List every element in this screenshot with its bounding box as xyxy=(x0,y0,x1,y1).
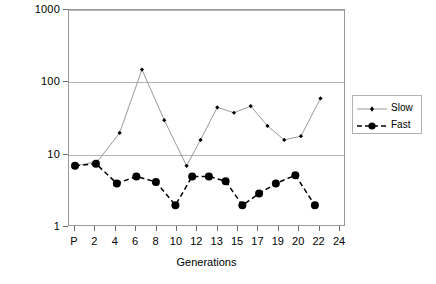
series-fast-marker xyxy=(171,201,179,209)
series-fast-marker xyxy=(188,172,196,180)
series-fast-marker xyxy=(238,201,246,209)
x-tick-label: 13 xyxy=(211,235,223,247)
x-tick-label: 4 xyxy=(112,235,118,247)
series-fast-marker xyxy=(152,178,160,186)
y-tick-label: 1000 xyxy=(35,3,60,15)
series-slow-marker xyxy=(232,111,236,115)
y-tick-label: 10 xyxy=(47,148,60,160)
x-tick-mark xyxy=(196,226,197,231)
x-tick-mark xyxy=(339,226,340,231)
x-tick-label: 24 xyxy=(333,235,345,247)
series-fast xyxy=(71,160,319,210)
x-tick-label: P xyxy=(70,235,77,247)
series-fast-marker xyxy=(71,162,79,170)
x-tick-label: 19 xyxy=(272,235,284,247)
data-series-layer xyxy=(69,10,346,227)
series-slow-marker xyxy=(184,164,188,168)
series-slow-marker xyxy=(198,138,202,142)
chart-figure: Mean mating time (log min) 1000100101 P2… xyxy=(0,0,436,284)
series-slow-line xyxy=(75,70,320,166)
x-tick-label: 2 xyxy=(91,235,97,247)
x-axis-title: Generations xyxy=(68,256,345,268)
series-slow-marker xyxy=(140,67,144,71)
plot-area xyxy=(68,9,345,226)
legend-item-fast: Fast xyxy=(357,116,421,132)
x-tick-mark xyxy=(94,226,95,231)
series-fast-marker xyxy=(255,190,263,198)
x-tick-mark xyxy=(319,226,320,231)
series-fast-marker xyxy=(311,201,319,209)
x-tick-mark xyxy=(237,226,238,231)
legend-item-slow: Slow xyxy=(357,99,421,115)
x-tick-label: 6 xyxy=(132,235,138,247)
legend-label-fast: Fast xyxy=(391,119,410,130)
x-tick-label: 20 xyxy=(292,235,304,247)
legend-swatch-fast xyxy=(357,118,387,130)
x-tick-label: 8 xyxy=(152,235,158,247)
series-slow xyxy=(73,67,323,167)
series-slow-marker xyxy=(215,105,219,109)
x-tick-label: 15 xyxy=(231,235,243,247)
series-fast-marker xyxy=(92,160,100,168)
y-tick-label: 100 xyxy=(41,75,60,87)
x-tick-mark xyxy=(278,226,279,231)
series-fast-marker xyxy=(222,177,230,185)
x-tick-mark xyxy=(257,226,258,231)
y-tick-label: 1 xyxy=(54,220,60,232)
series-fast-marker xyxy=(291,171,299,179)
series-fast-marker xyxy=(132,172,140,180)
series-fast-marker xyxy=(205,172,213,180)
x-tick-mark xyxy=(156,226,157,231)
x-tick-label: 17 xyxy=(251,235,263,247)
series-fast-marker xyxy=(272,179,280,187)
x-tick-label: 10 xyxy=(170,235,182,247)
series-slow-marker xyxy=(299,134,303,138)
x-tick-mark xyxy=(176,226,177,231)
x-tick-mark xyxy=(298,226,299,231)
x-tick-label: 12 xyxy=(190,235,202,247)
series-slow-marker xyxy=(318,96,322,100)
x-tick-label: 22 xyxy=(312,235,324,247)
series-slow-marker xyxy=(162,118,166,122)
legend-label-slow: Slow xyxy=(391,102,413,113)
x-tick-mark xyxy=(217,226,218,231)
x-tick-mark xyxy=(135,226,136,231)
x-tick-mark xyxy=(74,226,75,231)
series-fast-marker xyxy=(113,179,121,187)
x-tick-mark xyxy=(115,226,116,231)
legend-swatch-slow xyxy=(357,101,387,113)
legend: Slow Fast xyxy=(352,95,422,134)
